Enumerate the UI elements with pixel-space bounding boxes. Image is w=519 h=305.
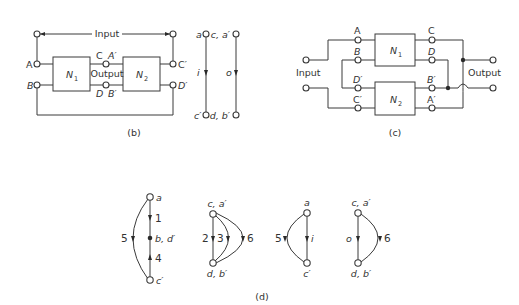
label-b: B — [27, 80, 34, 91]
node-a — [304, 210, 310, 216]
label-c: C — [428, 25, 435, 36]
edge-5-label: 5 — [275, 232, 282, 244]
arrow-down-icon — [148, 215, 152, 221]
input-label: Input — [95, 28, 120, 39]
arrow-right-icon — [165, 32, 170, 36]
node-c-prime-label: c′ — [194, 110, 202, 121]
junction-dot — [461, 58, 465, 62]
label-d: D — [96, 88, 103, 99]
terminal-input-top — [303, 57, 309, 63]
node-c-prime — [203, 112, 209, 118]
label-a-prime: A′ — [107, 50, 117, 61]
node-a-label: a — [304, 197, 310, 208]
node-d-b-prime — [233, 112, 239, 118]
label-a: A — [354, 25, 361, 36]
edge-2-label: 2 — [202, 232, 209, 244]
label-a-prime: A′ — [427, 94, 436, 105]
edge-6-label: 6 — [384, 232, 391, 244]
junction-dot — [446, 86, 450, 90]
label-b: B — [354, 46, 361, 57]
edge-i-label: i — [311, 233, 314, 244]
caption-c: (c) — [389, 127, 402, 138]
output-label: Output — [91, 68, 124, 79]
label-d: D — [428, 46, 435, 57]
label-c-prime: C′ — [353, 94, 362, 105]
figure-c: Input N 1 N 2 Output — [296, 25, 501, 138]
node-d-b-prime-label: d, b′ — [207, 268, 228, 279]
edge-4-label: 4 — [155, 252, 162, 264]
arrow-down-icon — [204, 70, 208, 76]
label-c: C — [96, 50, 103, 61]
label-b-prime: B′ — [427, 74, 437, 85]
terminal-c-prime — [170, 61, 176, 67]
graph-1: a b, d′ c′ 1 4 5 — [121, 192, 176, 286]
node-b-d-prime-label: b, d′ — [155, 233, 176, 244]
n2-subscript: 2 — [144, 75, 148, 83]
node-c-a-prime-label: c, a′ — [207, 198, 227, 209]
arrow-down-icon — [305, 236, 309, 242]
n2-label: N — [136, 69, 143, 80]
label-c-prime: C′ — [178, 59, 187, 70]
terminal-output-bottom — [490, 85, 496, 91]
node-b-d-prime — [148, 236, 153, 241]
arrow-down-icon — [226, 236, 230, 242]
input-label: Input — [296, 67, 321, 78]
terminal-a-prime — [429, 105, 435, 111]
edge-5-label: 5 — [121, 232, 128, 244]
figure-b: Input N 1 N 2 A — [26, 28, 188, 138]
node-d-b-prime — [210, 260, 216, 266]
arrow-down-icon — [378, 236, 382, 242]
node-c-prime-label: c′ — [156, 275, 164, 286]
terminal-b — [355, 57, 361, 63]
figure-canvas: Input N 1 N 2 A — [0, 0, 519, 305]
terminal-c — [429, 37, 435, 43]
arrow-down-icon — [211, 236, 215, 242]
terminal-a — [355, 37, 361, 43]
node-a-label: a — [196, 29, 202, 40]
arrow-up-icon — [148, 254, 152, 260]
figure-d: a b, d′ c′ 1 4 5 c, a′ d, b′ 2 3 6 — [121, 192, 391, 302]
label-d-prime: D′ — [178, 80, 188, 91]
figure-b-graph: a c′ i c, a′ d, b′ o — [194, 29, 239, 121]
terminal-d — [429, 57, 435, 63]
label-a: A — [26, 59, 33, 70]
arrow-down-icon — [241, 236, 245, 242]
node-c-a-prime-label: c, a′ — [351, 197, 371, 208]
node-a — [203, 31, 209, 37]
n1-label: N — [66, 69, 73, 80]
node-a-label: a — [156, 192, 162, 203]
arrow-down-icon — [131, 236, 135, 242]
terminal-b-prime — [429, 85, 435, 91]
caption-d: (d) — [255, 291, 268, 302]
graph-2: c, a′ d, b′ 2 3 6 — [202, 198, 254, 279]
n2-label: N — [390, 94, 397, 105]
n1-label: N — [390, 45, 397, 56]
terminal-c-a-prime — [103, 61, 109, 67]
arrow-down-icon — [283, 236, 287, 242]
terminal-c-prime — [355, 105, 361, 111]
edge-o-label: o — [226, 67, 232, 78]
node-c-a-prime — [355, 210, 361, 216]
terminal-output-top — [490, 57, 496, 63]
terminal-b — [34, 82, 40, 88]
graph-4: c, a′ d, b′ o 6 — [346, 197, 391, 279]
node-c-prime — [147, 277, 153, 283]
edge-3-label: 3 — [217, 232, 224, 244]
node-c-prime-label: c′ — [303, 268, 311, 279]
terminal-d-prime — [355, 85, 361, 91]
terminal-input-right — [170, 31, 176, 37]
node-d-b-prime — [355, 260, 361, 266]
edge-i-label: i — [197, 67, 200, 78]
terminal-d-prime — [170, 82, 176, 88]
terminal-input-left — [34, 31, 40, 37]
n1-subscript: 1 — [74, 75, 78, 83]
arrow-down-icon — [356, 236, 360, 242]
edge-o-label: o — [346, 233, 352, 244]
label-b-prime: B′ — [108, 88, 118, 99]
node-c-a-prime — [210, 211, 216, 217]
node-a — [147, 194, 153, 200]
arrow-left-icon — [40, 32, 45, 36]
node-c-prime — [304, 260, 310, 266]
edge-6-label: 6 — [247, 232, 254, 244]
terminal-a — [34, 61, 40, 67]
